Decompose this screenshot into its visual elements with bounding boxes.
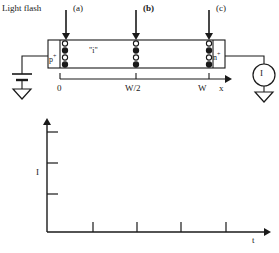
arrow-label-b: (b) <box>143 4 154 13</box>
arrow-label-c: (c) <box>216 4 226 13</box>
carrier-column-w-half <box>133 41 138 67</box>
hole-circle <box>206 41 211 46</box>
ammeter-label: I <box>260 69 263 78</box>
ammeter-circle <box>253 64 275 86</box>
carrier-column-w <box>206 41 211 67</box>
position-axis-label: x <box>219 84 224 93</box>
right-circuit-wiring <box>225 56 275 102</box>
hole-circle <box>62 55 67 60</box>
hole-circle <box>133 41 138 46</box>
electron-circle <box>133 48 138 53</box>
electron-circle <box>133 62 138 67</box>
position-tick-label-w: W <box>198 84 207 93</box>
n-contact-label: n+ <box>213 51 220 62</box>
electron-circle <box>206 62 211 67</box>
electron-circle <box>62 62 67 67</box>
n-contact-sup: + <box>217 51 220 57</box>
electron-circle <box>62 48 67 53</box>
figure-svg <box>0 0 279 253</box>
plot-y-axis-label: I <box>36 168 39 177</box>
p-contact-label: p+ <box>49 53 56 64</box>
current-time-plot <box>47 122 267 232</box>
light-flash-label: Light flash <box>2 4 41 13</box>
hole-circle <box>206 55 211 60</box>
position-tick-label-0: 0 <box>57 84 62 93</box>
figure-canvas: Light flash (a) (b) (c) p+ n+ "i" 0 W/2 … <box>0 0 279 253</box>
carrier-column-0 <box>62 41 67 67</box>
ground-symbol-right <box>255 92 273 102</box>
position-axis <box>60 73 228 79</box>
left-circuit-wiring <box>12 56 48 99</box>
plot-x-axis-label: t <box>252 236 255 245</box>
hole-circle <box>62 41 67 46</box>
arrow-label-a: (a) <box>73 4 83 13</box>
electron-circle <box>206 48 211 53</box>
position-tick-label-w-half: W/2 <box>125 84 141 93</box>
p-contact-sup: + <box>53 53 56 59</box>
hole-circle <box>133 55 138 60</box>
intrinsic-region-label: "i" <box>89 47 98 55</box>
